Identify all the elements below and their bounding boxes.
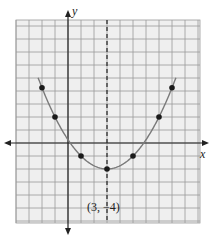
y-axis-label: y <box>72 4 77 19</box>
y-axis-up-arrow-icon <box>65 10 71 17</box>
data-point <box>52 114 58 120</box>
y-axis-down-arrow-icon <box>65 228 71 235</box>
x-axis-left-arrow-icon <box>4 140 11 146</box>
data-point <box>169 85 175 91</box>
x-axis-right-arrow-icon <box>202 140 209 146</box>
vertex-label: (3, −4) <box>87 200 120 215</box>
data-point <box>130 153 136 159</box>
data-point <box>39 85 45 91</box>
x-axis-label: x <box>200 147 205 162</box>
data-point <box>156 114 162 120</box>
data-point <box>104 166 110 172</box>
data-point <box>78 153 84 159</box>
